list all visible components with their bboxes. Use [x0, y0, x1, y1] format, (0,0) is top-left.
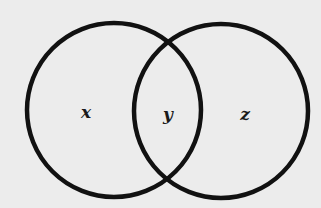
venn-diagram: x y z	[0, 0, 321, 208]
label-y: y	[162, 104, 174, 124]
right-circle	[134, 24, 308, 198]
left-circle	[27, 23, 201, 197]
label-z: z	[239, 104, 250, 124]
label-x: x	[80, 102, 92, 122]
